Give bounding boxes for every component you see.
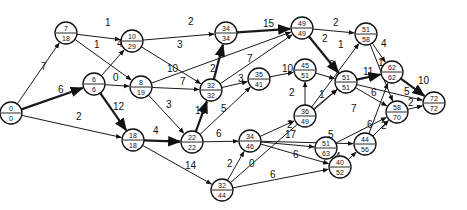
node-n14: 3244 xyxy=(211,179,233,201)
node-n22: 7272 xyxy=(423,92,445,114)
edge-weight-label: 4 xyxy=(153,125,159,136)
node-latest-time: 70 xyxy=(393,114,401,121)
edge-weight-label: 2 xyxy=(227,158,233,169)
node-latest-time: 49 xyxy=(301,118,309,125)
edge-weight-label: 2 xyxy=(188,16,194,27)
node-latest-time: 56 xyxy=(361,146,369,153)
edge-weight-label: 14 xyxy=(185,160,197,171)
edge-weight-label: 2 xyxy=(322,33,328,44)
node-n20: 4052 xyxy=(329,156,351,178)
edge-weight-label: 10 xyxy=(418,75,430,86)
edge-weight-label: 4 xyxy=(381,38,387,49)
node-n3: 1029 xyxy=(121,30,143,52)
node-n4: 819 xyxy=(130,76,152,98)
node-earliest-time: 40 xyxy=(336,159,344,166)
edge-n0-n5 xyxy=(22,115,122,137)
node-latest-time: 29 xyxy=(128,43,136,50)
edge-n11-n16 xyxy=(316,73,335,79)
edge-n5-n8 xyxy=(144,140,180,141)
edge-weight-label: 6 xyxy=(371,87,377,98)
network-diagram: 7621140122310734141056273151022012121756… xyxy=(0,0,467,210)
edge-weight-label: 7 xyxy=(41,61,47,72)
node-n1: 718 xyxy=(55,22,77,44)
node-earliest-time: 34 xyxy=(222,25,230,32)
node-latest-time: 46 xyxy=(246,143,254,150)
edge-weight-label: 5 xyxy=(404,86,410,97)
node-earliest-time: 51 xyxy=(362,26,370,33)
node-latest-time: 18 xyxy=(62,35,70,42)
edge-n8-n13 xyxy=(203,141,238,142)
node-latest-time: 51 xyxy=(301,72,309,79)
node-earliest-time: 36 xyxy=(301,108,309,115)
node-latest-time: 44 xyxy=(218,192,226,199)
edge-weight-label: 7 xyxy=(180,76,186,87)
edge-n20-n21 xyxy=(348,152,356,159)
edge-weight-label: 2 xyxy=(289,87,295,98)
node-earliest-time: 18 xyxy=(129,132,137,139)
node-latest-time: 72 xyxy=(430,105,438,112)
node-n2: 66 xyxy=(83,73,105,95)
node-latest-time: 34 xyxy=(222,35,230,42)
node-n12: 3649 xyxy=(294,105,316,127)
node-earliest-time: 51 xyxy=(342,74,350,81)
edge-weight-label: 1 xyxy=(319,89,325,100)
node-latest-time: 51 xyxy=(342,84,350,91)
node-n5: 1818 xyxy=(122,129,144,151)
edge-weight-label: 2 xyxy=(408,97,414,108)
node-n21: 4456 xyxy=(354,133,376,155)
node-earliest-time: 44 xyxy=(361,136,369,143)
node-earliest-time: 45 xyxy=(301,62,309,69)
edge-weight-label: 7 xyxy=(247,53,253,64)
node-n6: 3434 xyxy=(215,22,237,44)
node-earliest-time: 32 xyxy=(207,82,215,89)
edge-weight-label: 12 xyxy=(113,101,125,112)
node-latest-time: 6 xyxy=(92,86,96,93)
node-earliest-time: 10 xyxy=(128,33,136,40)
edge-weight-label: 1 xyxy=(105,17,111,28)
node-earliest-time: 62 xyxy=(388,64,396,71)
node-n17: 5163 xyxy=(315,137,337,159)
node-earliest-time: 32 xyxy=(218,182,226,189)
edge-weight-label: 2 xyxy=(210,63,216,74)
edge-weight-label: 6 xyxy=(293,149,299,160)
edge-n4-n7 xyxy=(152,87,199,89)
node-n13: 3446 xyxy=(239,130,261,152)
node-earliest-time: 35 xyxy=(255,71,263,78)
edge-weight-label: 6 xyxy=(216,128,222,139)
edge-weight-label: 0 xyxy=(249,158,255,169)
node-latest-time: 22 xyxy=(188,144,196,151)
edge-weight-label: 0 xyxy=(113,72,119,83)
edge-weight-label: 15 xyxy=(263,18,275,29)
node-n18: 6262 xyxy=(381,61,403,83)
node-earliest-time: 0 xyxy=(9,105,13,112)
node-n9: 3541 xyxy=(248,68,270,90)
edge-weight-label: 2 xyxy=(333,17,339,28)
edge-weight-label: 10 xyxy=(282,63,294,74)
node-latest-time: 52 xyxy=(336,169,344,176)
edge-weight-label: 1 xyxy=(94,39,100,50)
edge-n6-n10 xyxy=(237,29,290,32)
node-earliest-time: 6 xyxy=(92,76,96,83)
edge-weight-label: 3 xyxy=(238,73,244,84)
edge-weight-label: 2 xyxy=(381,120,387,131)
node-earliest-time: 34 xyxy=(246,133,254,140)
edge-weight-label: 5 xyxy=(221,103,227,114)
edge-weight-label: 6 xyxy=(367,119,373,130)
node-latest-time: 63 xyxy=(322,150,330,157)
node-earliest-time: 72 xyxy=(430,95,438,102)
node-earliest-time: 7 xyxy=(64,25,68,32)
edge-n10-n15 xyxy=(313,29,354,33)
node-latest-time: 62 xyxy=(388,74,396,81)
node-n19: 5870 xyxy=(386,101,408,123)
edge-weight-label: 10 xyxy=(195,105,207,116)
node-latest-time: 58 xyxy=(362,36,370,43)
node-latest-time: 18 xyxy=(129,142,137,149)
edge-weight-label: 17 xyxy=(285,129,297,140)
node-n0: 00 xyxy=(0,102,22,124)
node-latest-time: 49 xyxy=(298,30,306,37)
edge-weight-label: 3 xyxy=(177,39,183,50)
edge-weight-label: 7 xyxy=(351,103,357,114)
edge-n0-n2 xyxy=(21,88,82,109)
edge-weight-label: 3 xyxy=(166,99,172,110)
node-n8: 2222 xyxy=(181,131,203,153)
